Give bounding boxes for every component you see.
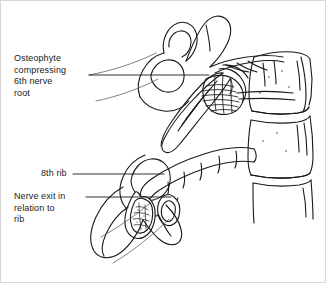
lamina-upper — [210, 56, 284, 74]
anatomical-drawing — [1, 1, 326, 283]
spinous-process — [186, 16, 231, 67]
label-eighth-rib: 8th rib — [41, 168, 67, 180]
vertebral-body-lower — [248, 116, 313, 178]
intervertebral-disc-upper — [251, 107, 310, 123]
illustration-figure: Osteophyte compressing 6th nerve root 8t… — [0, 0, 326, 283]
label-nerve-exit: Nerve exit in relation to rib — [14, 191, 65, 226]
rib-cross-section — [125, 192, 155, 239]
pedicle-upper — [138, 53, 189, 111]
superior-articular-process — [163, 22, 197, 61]
intervertebral-disc-lower — [251, 173, 313, 223]
label-osteophyte: Osteophyte compressing 6th nerve root — [14, 53, 66, 99]
